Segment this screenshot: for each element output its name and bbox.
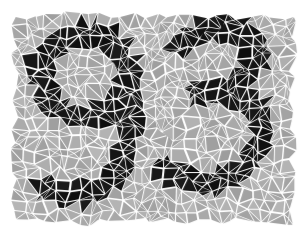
mosaic-image-container: 93 93 Two digits rendered as dark mosaic… <box>0 0 305 235</box>
mosaic-digit-image <box>0 0 305 235</box>
